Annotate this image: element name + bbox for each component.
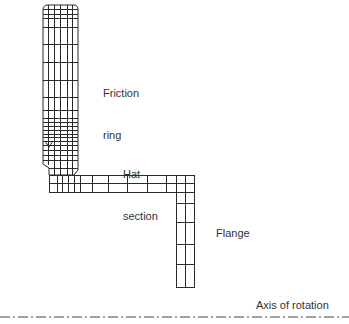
hat-section-label: Hat section [123, 139, 158, 251]
flange-mesh [176, 192, 194, 287]
friction-ring-mesh [43, 5, 78, 175]
mesh-drawing [0, 0, 349, 324]
hat-section-mesh [49, 175, 194, 192]
brake-disc-mesh-diagram: Friction ring Hat section Flange Axis of… [0, 0, 349, 324]
axis-of-rotation-label: Axis of rotation [256, 298, 329, 312]
friction-ring-label-line1: Friction [103, 86, 139, 100]
flange-label: Flange [216, 226, 250, 240]
hat-section-label-line1: Hat [123, 167, 158, 181]
hat-section-label-line2: section [123, 209, 158, 223]
